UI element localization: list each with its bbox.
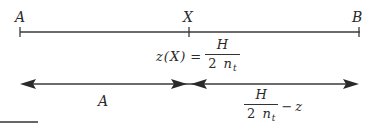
denominator-var: n: [262, 106, 270, 121]
denominator-sub: t: [233, 63, 237, 73]
formula-remaining: H 2 nt − z: [244, 88, 302, 124]
denominator-coef: 2: [247, 106, 255, 121]
denominator-var: n: [224, 56, 232, 71]
fraction-bar: [205, 54, 239, 55]
formula-remaining-numerator: H: [253, 88, 270, 102]
formula-remaining-minus: −: [281, 99, 292, 114]
formula-zx: z(X) = H 2 nt: [156, 38, 240, 75]
formula-zx-fraction: H 2 nt: [205, 38, 239, 75]
segment-label-a: A: [98, 94, 108, 108]
point-label-b: B: [352, 10, 362, 24]
formula-zx-numerator: H: [214, 38, 231, 52]
formula-remaining-denominator: 2 nt: [244, 107, 278, 124]
formula-zx-equals: =: [190, 49, 201, 64]
formula-zx-denominator: 2 nt: [205, 57, 239, 75]
formula-remaining-fraction: H 2 nt: [244, 88, 278, 124]
point-label-a: A: [15, 10, 25, 24]
fraction-bar: [244, 104, 278, 105]
point-label-x: X: [183, 10, 193, 24]
denominator-coef: 2: [208, 56, 216, 71]
formula-zx-lhs: z(X): [156, 49, 186, 64]
formula-remaining-z: z: [295, 99, 302, 114]
denominator-sub: t: [272, 113, 276, 123]
